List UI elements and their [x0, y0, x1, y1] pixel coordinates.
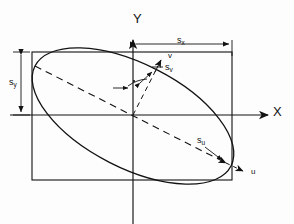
v-axis-label: v: [168, 52, 172, 60]
su-dimension-label: su: [197, 136, 205, 146]
sv-subscript: v: [170, 66, 173, 73]
x-axis-label: X: [273, 105, 282, 118]
su-subscript: u: [202, 139, 206, 146]
y-axis-label: Y: [133, 12, 142, 25]
rotation-angle-marker: [113, 79, 147, 88]
sy-dimension-label: sy: [9, 78, 17, 88]
sv-dimension-label: sv: [165, 63, 173, 73]
bounding-rectangle: [32, 52, 232, 180]
sx-dimension-label: sx: [177, 36, 185, 46]
v-axis-dashed-line: [133, 66, 158, 115]
figure-canvas: [0, 0, 294, 224]
u-axis-label: u: [251, 168, 255, 176]
sv-dimension-marks: [140, 67, 163, 83]
sy-subscript: y: [14, 81, 17, 88]
error-ellipse-figure: Y X u v sx sy su sv: [0, 0, 294, 224]
sx-subscript: x: [182, 39, 185, 46]
